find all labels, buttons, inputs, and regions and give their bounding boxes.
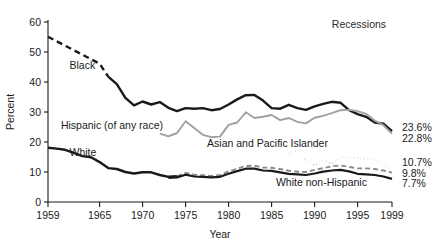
x-tick-label: 1965 [88,209,112,221]
y-tick-label: 10 [29,166,41,178]
x-tick-label: 1975 [174,209,198,221]
annotation-white-non-hispanic: White non-Hispanic [276,176,367,188]
end-label-hispanic-of-any-race: 22.8% [402,132,432,144]
series-line-white [48,148,177,177]
annotation-black: Black [70,59,96,71]
x-tick-label: 1995 [346,209,370,221]
x-tick-label: 1990 [303,209,327,221]
annotation-white: White [70,146,97,158]
x-tick-label: 1999 [380,209,404,221]
annotation-recessions: Recessions [332,18,386,30]
y-axis-title: Percent [4,94,16,130]
x-tick-label: 1970 [131,209,155,221]
series-line-black-dashed [48,37,108,77]
end-label-white-non-hispanic: 7.7% [402,177,426,189]
chart-figure: 0102030405060195919651970197519801985199… [0,0,445,244]
y-tick-label: 40 [29,76,41,88]
series-line-asian-and-pacific-islander [289,150,392,170]
y-tick-label: 20 [29,136,41,148]
x-tick-label: 1980 [217,209,241,221]
y-tick-label: 50 [29,46,41,58]
x-axis-title: Year [209,228,231,240]
y-tick-label: 60 [29,16,41,28]
annotation-asian-and-pacific-islander: Asian and Pacific Islander [207,137,328,149]
annotation-hispanic-of-any-race: Hispanic (of any race) [61,119,163,131]
y-tick-label: 0 [35,196,41,208]
y-tick-label: 30 [29,106,41,118]
x-tick-label: 1985 [260,209,284,221]
poverty-rate-line-chart: 0102030405060195919651970197519801985199… [0,0,445,244]
x-tick-label: 1959 [36,209,60,221]
